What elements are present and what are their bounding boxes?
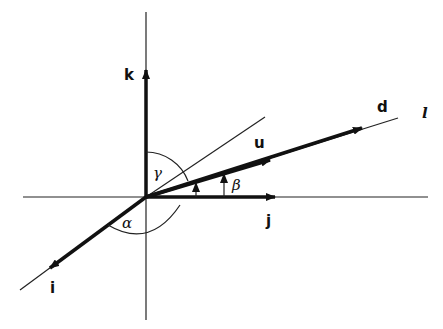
label-k: k — [124, 66, 135, 84]
reference-line — [146, 117, 265, 197]
label-i: i — [50, 279, 55, 297]
label-d: d — [377, 98, 388, 116]
label-gamma: γ — [153, 164, 162, 182]
label-alpha: α — [122, 214, 132, 232]
label-l: l — [422, 104, 428, 122]
label-j: j — [265, 212, 271, 230]
direction-angles-diagram: k j i u d l γ β α — [0, 0, 443, 329]
label-u: u — [254, 134, 265, 152]
label-beta: β — [231, 176, 241, 194]
alpha-arc — [108, 205, 180, 234]
i-vector — [50, 197, 146, 268]
